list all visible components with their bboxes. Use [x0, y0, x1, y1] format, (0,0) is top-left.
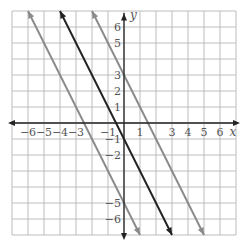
y-axis-arrow-icon: [121, 13, 127, 20]
x-tick-label: 5: [201, 126, 208, 139]
y-tick-label: −5: [105, 197, 121, 210]
y-tick-label: 1: [114, 101, 121, 114]
y-axis-label: y: [129, 8, 137, 22]
x-tick-label: 6: [217, 126, 224, 139]
y-tick-label: 6: [114, 21, 121, 34]
x-tick-label: 4: [185, 126, 192, 139]
x-tick-label: −3: [68, 126, 84, 139]
x-axis-label: x: [230, 125, 237, 139]
y-axis-arrow-icon: [121, 233, 127, 240]
x-tick-label: −4: [52, 126, 68, 139]
x-tick-label: 3: [169, 126, 176, 139]
y-tick-label: 5: [114, 37, 121, 50]
y-tick-label: −6: [105, 213, 121, 226]
x-tick-label: −6: [20, 126, 36, 139]
y-tick-label: −2: [105, 149, 121, 162]
coordinate-plane: −6−5−4−3−11345665321−1−2−5−6xy: [0, 0, 246, 250]
y-tick-label: 3: [114, 69, 121, 82]
x-tick-label: −5: [36, 126, 52, 139]
x-tick-label: 1: [137, 126, 144, 139]
y-tick-label: −1: [105, 133, 121, 146]
y-tick-label: 2: [114, 85, 121, 98]
